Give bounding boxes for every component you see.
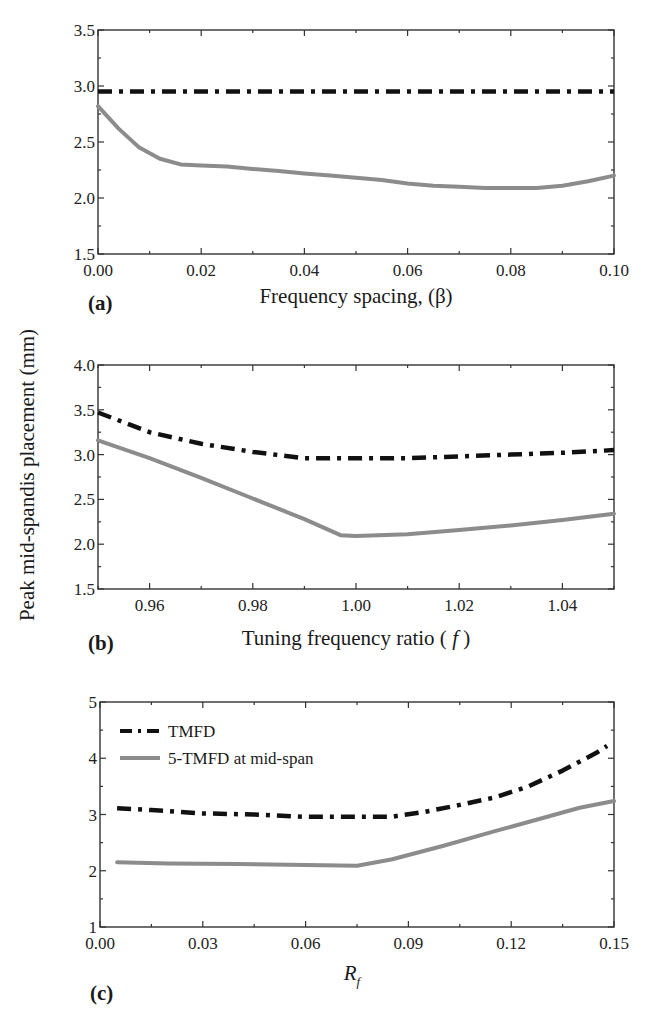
x-tick-label: 0.96 (135, 596, 165, 615)
panel-tag-b: (b) (88, 631, 114, 655)
shared-y-axis-label: Peak mid-spandis placement (mm) (15, 329, 39, 621)
y-tick-label: 1 (89, 918, 98, 937)
y-tick-label: 1.5 (74, 580, 95, 599)
x-tick-label: 1.02 (444, 596, 474, 615)
panel-b: 0.960.981.001.021.041.52.02.53.03.54.0 T… (74, 356, 614, 655)
y-tick-label: 2.0 (74, 189, 95, 208)
y-tick-label: 3 (89, 806, 98, 825)
figure: Peak mid-spandis placement (mm) 0.000.02… (0, 0, 647, 1020)
y-tick-label: 2.5 (74, 133, 95, 152)
x-tick-label: 0.98 (238, 596, 268, 615)
plot-frame-a (98, 30, 614, 254)
y-tick-label: 2.0 (74, 535, 95, 554)
y-tick-label: 5 (89, 693, 98, 712)
y-tick-label: 4.0 (74, 356, 95, 375)
x-tick-label: 0.06 (393, 261, 423, 280)
x-axis-label-b-text: Tuning frequency ratio ( (242, 626, 447, 650)
series-tmfd (98, 413, 614, 459)
plot-frame-b (98, 365, 614, 589)
series-5-tmfd-at-mid-span (98, 440, 614, 536)
series-b (98, 413, 614, 537)
x-tick-label: 0.02 (186, 261, 216, 280)
series-5-tmfd-at-mid-span (98, 106, 614, 188)
panel-c: 0.000.030.060.090.120.1512345 Rf (c) TMF… (85, 693, 629, 1005)
panel-tag-c: (c) (90, 981, 113, 1005)
y-tick-label: 3.5 (74, 21, 95, 40)
y-tick-label: 2.5 (74, 490, 95, 509)
x-tick-label: 0.12 (496, 934, 526, 953)
y-tick-label: 3.5 (74, 401, 95, 420)
x-axis-label-b: Tuning frequency ratio ( f ) (242, 626, 470, 650)
x-tick-label: 1.00 (341, 596, 371, 615)
legend-label-5tmfd: 5-TMFD at mid-span (168, 749, 314, 768)
x-tick-label: 0.09 (394, 934, 424, 953)
x-tick-label: 0.04 (290, 261, 320, 280)
x-tick-label: 1.04 (548, 596, 578, 615)
series-a (98, 92, 614, 188)
x-tick-label: 0.08 (496, 261, 526, 280)
y-tick-label: 4 (89, 749, 98, 768)
ticks-a: 0.000.020.040.060.080.101.52.02.53.03.5 (74, 21, 629, 280)
panel-a: 0.000.020.040.060.080.101.52.02.53.03.5 … (74, 21, 629, 315)
y-tick-label: 1.5 (74, 245, 95, 264)
y-tick-label: 3.0 (74, 446, 95, 465)
x-tick-label: 0.10 (599, 261, 629, 280)
ticks-b: 0.960.981.001.021.041.52.02.53.03.54.0 (74, 356, 614, 615)
x-axis-label-c: Rf (343, 961, 363, 989)
x-tick-label: 0.15 (599, 934, 629, 953)
y-tick-label: 2 (89, 862, 98, 881)
y-tick-label: 3.0 (74, 77, 95, 96)
x-axis-label-a: Frequency spacing, (β) (259, 284, 452, 308)
panel-tag-a: (a) (88, 291, 113, 315)
legend: TMFD 5-TMFD at mid-span (120, 722, 314, 768)
legend-label-tmfd: TMFD (168, 722, 215, 741)
x-tick-label: 0.03 (188, 934, 218, 953)
x-tick-label: 0.06 (291, 934, 321, 953)
ticks-c: 0.000.030.060.090.120.1512345 (85, 693, 629, 953)
